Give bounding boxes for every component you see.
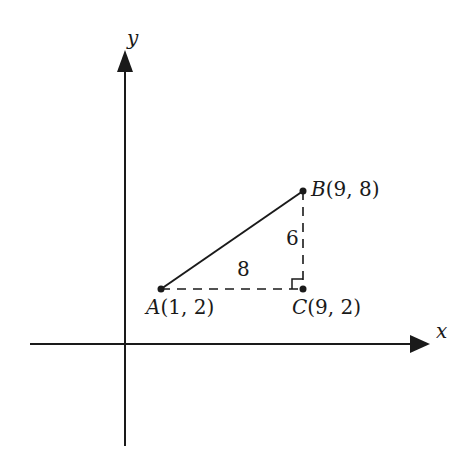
vertical-length-label: 6 <box>286 226 299 250</box>
y-axis-label: y <box>126 26 139 50</box>
point-a <box>158 286 165 293</box>
point-a-label: A(1, 2) <box>144 295 214 319</box>
point-c <box>300 286 307 293</box>
point-c-label: C(9, 2) <box>292 295 361 319</box>
segment-ab <box>161 191 303 289</box>
y-axis-arrow-icon <box>117 50 133 72</box>
coordinate-diagram: x y A(1, 2) B(9, 8) C(9, 2) 8 6 <box>0 0 469 474</box>
point-b-label: B(9, 8) <box>310 177 379 201</box>
point-b <box>300 188 307 195</box>
x-axis-arrow-icon <box>410 335 430 353</box>
x-axis-label: x <box>436 319 447 343</box>
horizontal-length-label: 8 <box>237 257 250 281</box>
